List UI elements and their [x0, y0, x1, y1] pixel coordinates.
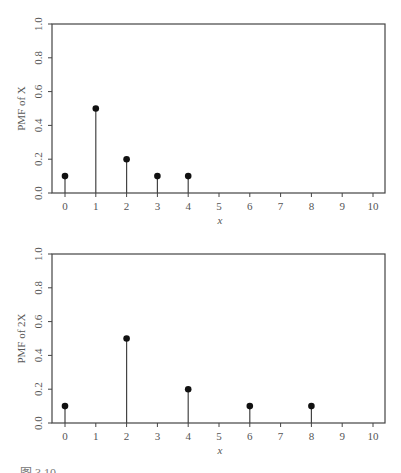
y-tick-label: 0.2	[32, 382, 44, 396]
stem-plots: 0.00.20.40.60.81.0012345678910xPMF of X0…	[0, 0, 401, 473]
y-tick-label: 0.2	[32, 152, 44, 166]
stem-marker	[154, 173, 161, 180]
y-tick-label: 1.0	[32, 17, 44, 31]
x-tick-label: 2	[124, 430, 130, 442]
stem-marker	[247, 403, 254, 410]
x-tick-label: 2	[124, 200, 130, 212]
x-tick-label: 10	[368, 200, 380, 212]
x-tick-label: 1	[93, 200, 99, 212]
y-tick-label: 0.8	[32, 280, 44, 294]
x-tick-label: 8	[309, 430, 315, 442]
x-tick-label: 3	[155, 200, 161, 212]
x-axis-label: x	[217, 444, 223, 456]
x-tick-label: 7	[278, 430, 284, 442]
stem-marker	[308, 403, 315, 410]
plot-frame	[52, 254, 385, 423]
y-axis-label: PMF of 2X	[15, 313, 27, 363]
plot-frame	[52, 24, 385, 193]
stem-marker	[93, 105, 100, 112]
x-tick-label: 10	[368, 430, 380, 442]
figure: 0.00.20.40.60.81.0012345678910xPMF of X0…	[0, 0, 401, 473]
stem-marker	[185, 386, 192, 393]
chart-panel-2: 0.00.20.40.60.81.0012345678910xPMF of 2X	[15, 247, 385, 456]
y-tick-label: 0.0	[32, 186, 44, 200]
y-tick-label: 1.0	[32, 247, 44, 261]
figure-caption: 图 3.10 …	[20, 465, 390, 473]
x-tick-label: 1	[93, 430, 99, 442]
stem-marker	[62, 403, 69, 410]
x-tick-label: 7	[278, 200, 284, 212]
x-tick-label: 0	[62, 430, 68, 442]
x-tick-label: 9	[339, 430, 345, 442]
stem-marker	[123, 156, 130, 163]
x-axis-label: x	[217, 214, 223, 226]
stem-marker	[62, 173, 69, 180]
x-tick-label: 5	[216, 200, 222, 212]
x-tick-label: 9	[339, 200, 345, 212]
y-tick-label: 0.0	[32, 416, 44, 430]
y-tick-label: 0.4	[32, 348, 44, 362]
x-tick-label: 5	[216, 430, 222, 442]
x-tick-label: 4	[185, 200, 191, 212]
y-tick-label: 0.4	[32, 118, 44, 132]
y-tick-label: 0.8	[32, 50, 44, 64]
y-tick-label: 0.6	[32, 314, 44, 328]
chart-panel-1: 0.00.20.40.60.81.0012345678910xPMF of X	[15, 17, 385, 226]
stem-marker	[185, 173, 192, 180]
x-tick-label: 8	[309, 200, 315, 212]
x-tick-label: 6	[247, 200, 253, 212]
stem-marker	[123, 335, 130, 342]
x-tick-label: 4	[185, 430, 191, 442]
x-tick-label: 3	[155, 430, 161, 442]
x-tick-label: 0	[62, 200, 68, 212]
y-axis-label: PMF of X	[15, 86, 27, 131]
x-tick-label: 6	[247, 430, 253, 442]
y-tick-label: 0.6	[32, 84, 44, 98]
